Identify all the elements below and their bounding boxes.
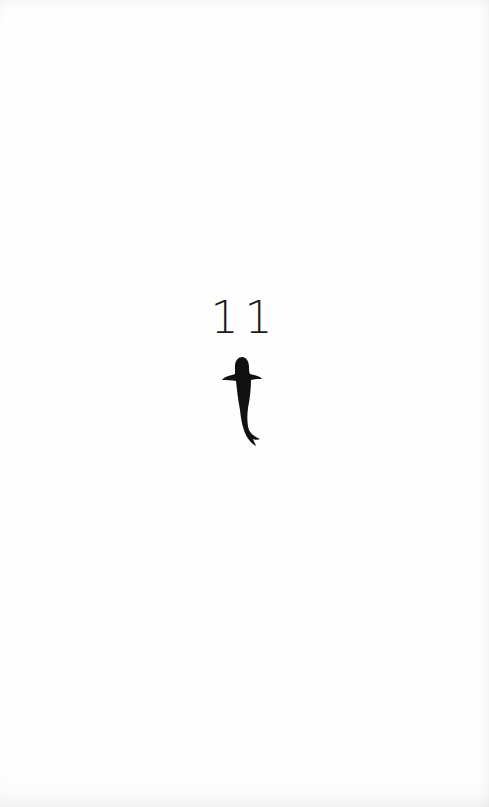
fish-body xyxy=(222,357,262,446)
book-page: 11 xyxy=(0,0,489,807)
page-number: 11 xyxy=(0,296,489,340)
koi-fish-silhouette-icon xyxy=(218,354,268,448)
